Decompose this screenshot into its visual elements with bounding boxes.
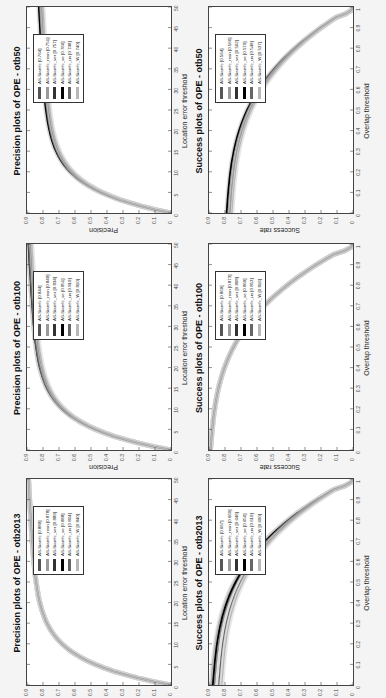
y-axis-label: Precision xyxy=(89,464,118,471)
y-tick-label: 0 xyxy=(349,458,355,461)
legend-swatch xyxy=(38,87,41,99)
legend-swatch xyxy=(46,87,49,99)
y-tick-label: 0.7 xyxy=(237,217,243,224)
legend-label: AS-Siamfc_W [0.537] xyxy=(257,42,262,84)
y-tick-label: 0.1 xyxy=(333,689,339,696)
legend-label: AS-Siamfc_ver [0.757] xyxy=(52,40,57,84)
x-tick-label: 0.7 xyxy=(355,66,361,73)
legend-swatch xyxy=(46,559,49,571)
x-tick-label: 50 xyxy=(173,477,179,483)
legend-entry: AS-Siamfc_W [0.810] xyxy=(74,275,82,336)
legend-label: AS-Siamfc_W [0.600] xyxy=(257,514,262,556)
legend-entry: AS-Siamfc_W [0.840] xyxy=(74,510,82,571)
legend: AS-Siamfc [0.844]AS-Siamfc_resn [0.849]A… xyxy=(33,271,84,340)
y-tick-label: 0.8 xyxy=(39,689,45,696)
legend-entry: AS-Siamfc_se [0.851] xyxy=(59,275,67,336)
legend-label: AS-Siamfc_un [0.748] xyxy=(67,41,72,84)
legend-swatch xyxy=(68,87,71,99)
y-tick-label: 0.4 xyxy=(103,689,109,696)
legend-label: AS-Siamfc_W [0.840] xyxy=(75,514,80,556)
legend-label: AS-Siamfc [0.844] xyxy=(37,286,42,321)
y-tick-label: 0.6 xyxy=(253,217,259,224)
x-tick-label: 0.3 xyxy=(355,620,361,627)
x-tick-label: 1 xyxy=(355,245,361,248)
x-tick-label: 10 xyxy=(173,642,179,648)
x-tick-label: 0.4 xyxy=(355,128,361,135)
y-tick-label: 0.9 xyxy=(205,454,211,461)
y-tick-label: 0.2 xyxy=(317,217,323,224)
legend-swatch xyxy=(61,559,64,571)
y-tick-label: 0.7 xyxy=(237,454,243,461)
legend-swatch xyxy=(243,559,246,571)
y-tick-label: 0.1 xyxy=(333,454,339,461)
y-tick-label: 0.2 xyxy=(135,454,141,461)
legend-swatch xyxy=(258,87,261,99)
legend-label: AS-Siamfc_se [0.851] xyxy=(60,279,65,321)
legend-entry: AS-Siamfc [0.869] xyxy=(218,275,226,336)
y-tick-label: 0.5 xyxy=(269,217,275,224)
figure: Precision plots of OPE - otb2013AS-Siamf… xyxy=(0,0,386,698)
x-tick-label: 5 xyxy=(173,194,179,197)
x-tick-label: 35 xyxy=(173,304,179,310)
legend-swatch xyxy=(258,559,261,571)
y-tick-label: 0.2 xyxy=(135,217,141,224)
legend-entry: AS-Siamfc_se [0.869] xyxy=(241,275,249,336)
legend-entry: AS-Siamfc_un [0.853] xyxy=(248,275,256,336)
legend-entry: AS-Siamfc_ver [0.562] xyxy=(233,38,241,99)
x-tick-label: 5 xyxy=(173,431,179,434)
legend-swatch xyxy=(220,87,223,99)
x-tick-label: 10 xyxy=(173,407,179,413)
legend-swatch xyxy=(76,559,79,571)
x-tick-label: 0.5 xyxy=(355,107,361,114)
y-tick-label: 0.3 xyxy=(301,454,307,461)
y-tick-label: 0 xyxy=(167,458,173,461)
x-tick-label: 20 xyxy=(173,601,179,607)
x-tick-label: 0.9 xyxy=(355,497,361,504)
panel-title: Precision plots of OPE - otb100 xyxy=(12,245,22,451)
x-tick-label: 0.8 xyxy=(355,517,361,524)
x-axis-label: Overlap threshold xyxy=(363,8,370,214)
y-tick-label: 0.7 xyxy=(55,689,61,696)
legend-entry: AS-Siamfc_W [0.816] xyxy=(256,275,264,336)
x-tick-label: 0.6 xyxy=(355,558,361,565)
legend-entry: AS-Siamfc_resn [0.849] xyxy=(44,275,52,336)
y-tick-label: 0.1 xyxy=(333,217,339,224)
legend-swatch xyxy=(76,324,79,336)
y-tick-label: 0.5 xyxy=(87,454,93,461)
legend-entry: AS-Siamfc_un [0.864] xyxy=(66,510,74,571)
plot-area: AS-Siamfc [0.889]AS-Siamfc_resn [0.878]A… xyxy=(26,478,172,686)
legend: AS-Siamfc [0.869]AS-Siamfc_resn [0.873]A… xyxy=(215,271,266,340)
y-tick-label: 0.3 xyxy=(119,689,125,696)
legend-entry: AS-Siamfc [0.764] xyxy=(36,38,44,99)
legend-swatch xyxy=(53,559,56,571)
legend-entry: AS-Siamfc_W [0.537] xyxy=(256,38,264,99)
x-tick-label: 45 xyxy=(173,498,179,504)
x-tick-label: 0 xyxy=(173,686,179,689)
x-tick-label: 0 xyxy=(173,214,179,217)
y-tick-label: 0.6 xyxy=(71,454,77,461)
y-tick-label: 0.5 xyxy=(87,217,93,224)
legend-entry: AS-Siamfc_W [0.600] xyxy=(256,510,264,571)
y-tick-label: 0 xyxy=(349,693,355,696)
x-tick-label: 45 xyxy=(173,263,179,269)
legend-label: AS-Siamfc_resn [0.660] xyxy=(227,510,232,556)
legend-swatch xyxy=(53,324,56,336)
legend-entry: AS-Siamfc_resn [0.660] xyxy=(226,510,234,571)
legend-label: AS-Siamfc_ver [0.868] xyxy=(234,277,239,321)
x-tick-label: 30 xyxy=(173,88,179,94)
y-tick-label: 0.3 xyxy=(119,454,125,461)
y-tick-label: 0.3 xyxy=(119,217,125,224)
legend-entry: AS-Siamfc_se [0.570] xyxy=(241,38,249,99)
x-tick-label: 0.7 xyxy=(355,303,361,310)
legend-entry: AS-Siamfc [0.844] xyxy=(36,275,44,336)
x-tick-label: 50 xyxy=(173,242,179,248)
legend-swatch xyxy=(53,87,56,99)
y-tick-label: 0.9 xyxy=(205,689,211,696)
y-axis-label: Success rate xyxy=(260,464,300,471)
x-tick-label: 0.1 xyxy=(355,661,361,668)
x-tick-label: 50 xyxy=(173,5,179,11)
legend-label: AS-Siamfc [0.667] xyxy=(219,521,224,556)
y-tick-label: 0.4 xyxy=(285,689,291,696)
legend-entry: AS-Siamfc_se [0.766] xyxy=(59,38,67,99)
legend-label: AS-Siamfc_resn [0.849] xyxy=(45,275,50,321)
